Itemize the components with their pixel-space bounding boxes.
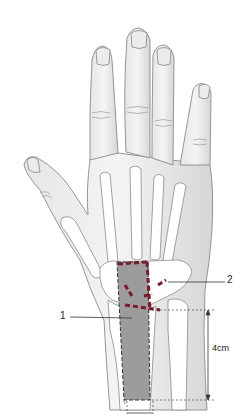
- hand-wrist-illustration: [0, 0, 246, 420]
- dimension-label-4cm: 4cm: [212, 343, 229, 353]
- label-1: 1: [60, 310, 66, 321]
- label-2: 2: [227, 274, 233, 285]
- height-dimension-arrow: [206, 310, 210, 400]
